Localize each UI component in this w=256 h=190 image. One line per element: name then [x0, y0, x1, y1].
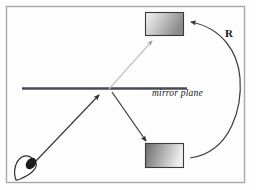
- mirrored-object-rectangle: [146, 13, 184, 36]
- source-object-rectangle: [146, 144, 184, 168]
- mirror-reflection-figure: mirror plane R: [0, 0, 256, 190]
- figure-canvas: [0, 0, 256, 190]
- figure-border: [7, 7, 245, 183]
- viewer-eye-icon: [15, 156, 39, 180]
- incident-ray: [35, 95, 99, 162]
- reflection-transform-arc: [190, 22, 240, 158]
- virtual-ray: [109, 41, 152, 89]
- reflected-ray: [112, 92, 146, 141]
